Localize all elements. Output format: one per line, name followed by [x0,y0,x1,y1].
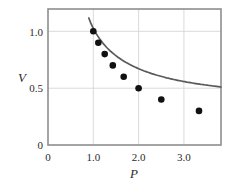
x-tick-label: 1.0 [86,151,100,163]
data-point [158,96,165,103]
y-tick-label: 1.0 [29,26,43,38]
y-tick-label: 0.5 [29,82,43,94]
chart-figure: 1.0 0.5 0 0 1.0 2.0 3.0 V P [0,0,234,183]
data-point [196,108,203,115]
data-point [135,85,142,92]
data-point [101,51,108,58]
x-axis-title: P [129,166,138,181]
x-tick-label: 3.0 [177,151,191,163]
data-point [95,39,102,46]
x-tick-label: 0 [45,151,51,163]
y-tick-label: 0 [38,139,44,151]
chart-svg: 1.0 0.5 0 0 1.0 2.0 3.0 V P [0,0,234,183]
data-point [90,28,97,35]
data-point [110,62,117,69]
x-tick-label: 2.0 [132,151,146,163]
data-point [120,74,127,81]
